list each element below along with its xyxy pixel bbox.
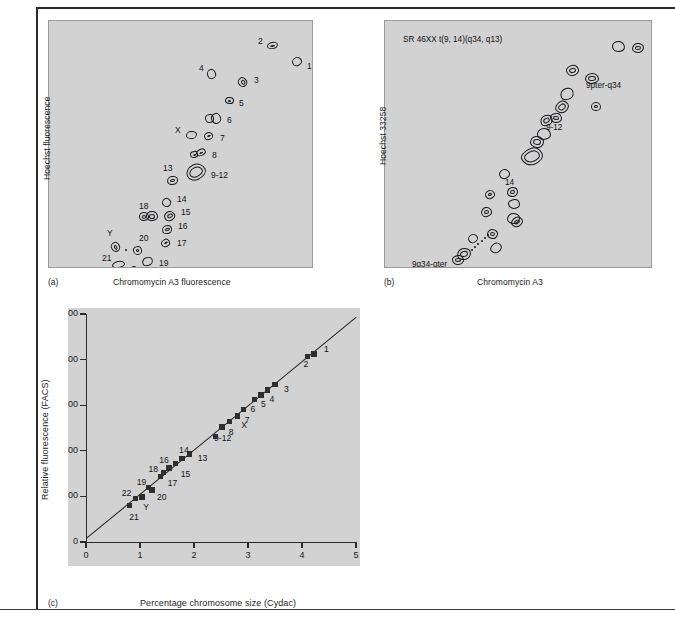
panel-b-annotation-9pter-q34: 9pter-q34 [586,81,621,90]
chromosome-cluster-18-pair [139,212,149,221]
cluster-label-1: 1 [307,61,312,71]
data-point-label-6: 6 [250,404,255,414]
data-point-16 [166,465,171,470]
data-point-3 [272,382,277,387]
panel-c-x-ticklabel-5: 5 [341,550,360,560]
cluster-label-8: 8 [212,150,217,160]
chromosome-cluster-b-1 [632,43,645,54]
data-point-Y [139,494,144,499]
data-point-15 [173,461,178,466]
cluster-label-9-12: 9-12 [211,170,228,180]
panel-c-x-axis [86,542,356,543]
data-point-9-12 [219,424,224,429]
chromosome-cluster-b-23 [452,254,465,265]
chromosome-cluster-1 [290,56,303,69]
data-point-label-19: 19 [137,477,147,487]
data-point-label-14: 14 [179,445,189,455]
panel-b-y-axis-label: Hoechst 33258 [378,107,388,165]
cluster-label-21: 21 [102,253,111,263]
chromosome-cluster-7 [203,131,214,141]
data-point-4 [265,387,270,392]
chromosome-cluster-14 [161,196,173,208]
cluster-label-4: 4 [199,63,204,73]
panel-b-annotation-9-12: 9-12 [546,123,562,132]
data-point-label-Y: Y [143,502,149,512]
cluster-label-16: 16 [178,221,187,231]
trail-dot-1 [474,246,476,248]
panel-c-y-tick-500 [80,313,86,314]
panel-c-letter: (c) [48,598,58,608]
data-point-label-22: 22 [122,488,132,498]
cluster-label-3: 3 [254,75,259,85]
chromosome-cluster-b-13 [506,186,519,198]
data-point-14 [179,456,184,461]
chromosome-cluster-X [185,130,196,139]
chromosome-cluster-17 [160,237,172,249]
data-point-5 [258,392,263,397]
panel-c-y-tick-400 [80,359,86,360]
panel-a-letter: (a) [48,277,58,287]
data-point-label-18: 18 [149,464,159,474]
page-rule-top [36,7,675,9]
page-rule-left [36,7,38,610]
panel-c: 01002003004005000123451234567X89-1213141… [68,308,360,566]
trail-dot-0 [471,249,473,251]
data-point-label-3: 3 [284,384,289,394]
data-point-2 [305,354,310,359]
panel-c-x-ticklabel-2: 2 [179,550,209,560]
panel-c-y-ticklabel-0: 0 [68,536,78,546]
panel-c-y-axis [86,314,87,542]
panel-c-y-ticklabel-400: 400 [68,354,78,364]
panel-c-x-ticklabel-3: 3 [233,550,263,560]
panel-c-x-tick-1 [139,542,140,548]
chromosome-cluster-13 [167,175,179,185]
data-point-label-5: 5 [261,399,266,409]
panel-c-x-ticklabel-0: 0 [71,550,101,560]
panel-c-y-ticklabel-300: 300 [68,399,78,409]
chromosome-cluster-4 [206,68,217,79]
panel-c-x-tick-3 [247,542,248,548]
chromosome-cluster-b-8 [550,113,563,124]
panel-b-x-axis-label: Chromomycin A3 [477,277,543,287]
panel-c-x-tick-5 [355,542,356,548]
data-point-u10 [213,434,218,439]
cluster-label-17: 17 [177,238,186,248]
cluster-label-5: 5 [239,98,244,108]
panel-a-plot-area: 1234567X89-1213141516171819202122Y [48,20,313,268]
chromosome-cluster-19 [141,256,155,268]
trail-dot-5 [487,234,489,236]
chromosome-cluster-5 [224,97,233,105]
trail-dot-2 [477,243,479,245]
panel-c-x-tick-4 [301,542,302,548]
chromosome-cluster-16 [161,223,174,234]
panel-c-x-axis-label: Percentage chromosome size (Cydac) [140,598,296,608]
data-point-1 [311,351,316,356]
data-point-7 [241,407,246,412]
page-rule-bottom [0,609,675,610]
data-point-label-16: 16 [159,455,169,465]
panel-b: SR 46XX t(9, 14)(q34, q13)9pter-q349-121… [384,20,652,268]
data-point-20 [149,487,154,492]
data-point-label-2: 2 [303,359,308,369]
data-point-label-1: 1 [324,344,329,354]
panel-c-x-ticklabel-1: 1 [125,550,155,560]
panel-b-letter: (b) [384,277,394,287]
chromosome-cluster-b-20 [488,240,504,255]
cluster-label-15: 15 [181,207,190,217]
data-point-label-15: 15 [181,469,191,479]
panel-c-x-ticklabel-4: 4 [287,550,317,560]
panel-b-annotation-9q34-qter: 9q34-qter [412,260,447,268]
panel-c-x-tick-2 [193,542,194,548]
cluster-label-13: 13 [163,163,172,173]
chromosome-cluster-Y [109,241,121,254]
speckle-0 [125,249,127,251]
chromosome-cluster-3 [236,75,249,89]
panel-c-y-axis-label: Relative fluorescence (FACS) [40,379,50,500]
data-point-label-21: 21 [129,512,139,522]
chromosome-cluster-15 [163,209,177,222]
chromosome-cluster-2 [266,41,278,50]
chromosome-cluster-22 [130,266,138,268]
cluster-label-Y: Y [107,228,113,238]
data-point-18 [158,474,163,479]
panel-c-plot-area: 01002003004005000123451234567X89-1213141… [68,308,360,566]
